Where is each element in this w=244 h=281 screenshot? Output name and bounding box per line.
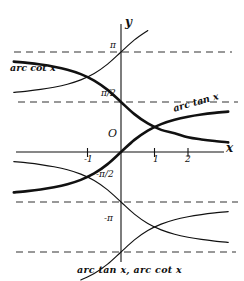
x-tick-label-2: 2 — [185, 155, 191, 164]
y-gridline-label-half-pi: π/2 — [101, 89, 116, 98]
axis-label-x: x — [226, 142, 233, 154]
plot-canvas — [0, 0, 244, 281]
y-gridline-label-pi: π — [110, 41, 116, 50]
curve-label-arccot: arc cot x — [10, 63, 56, 73]
figure-caption: arc tan x, arc cot x — [77, 265, 182, 275]
axes — [16, 24, 224, 262]
y-gridline-label-neg-pi: -π — [104, 214, 113, 223]
origin-label: O — [108, 128, 117, 139]
y-gridline-label-neg-half-pi: -π/2 — [96, 170, 114, 179]
x-tick-label-neg-1: -1 — [84, 155, 93, 164]
axis-label-y: y — [125, 16, 132, 28]
figure-arctan-arccot: y x O π π/2 -π/2 -π -1 1 2 arc cot x arc… — [0, 0, 244, 281]
x-tick-label-1: 1 — [153, 155, 159, 164]
